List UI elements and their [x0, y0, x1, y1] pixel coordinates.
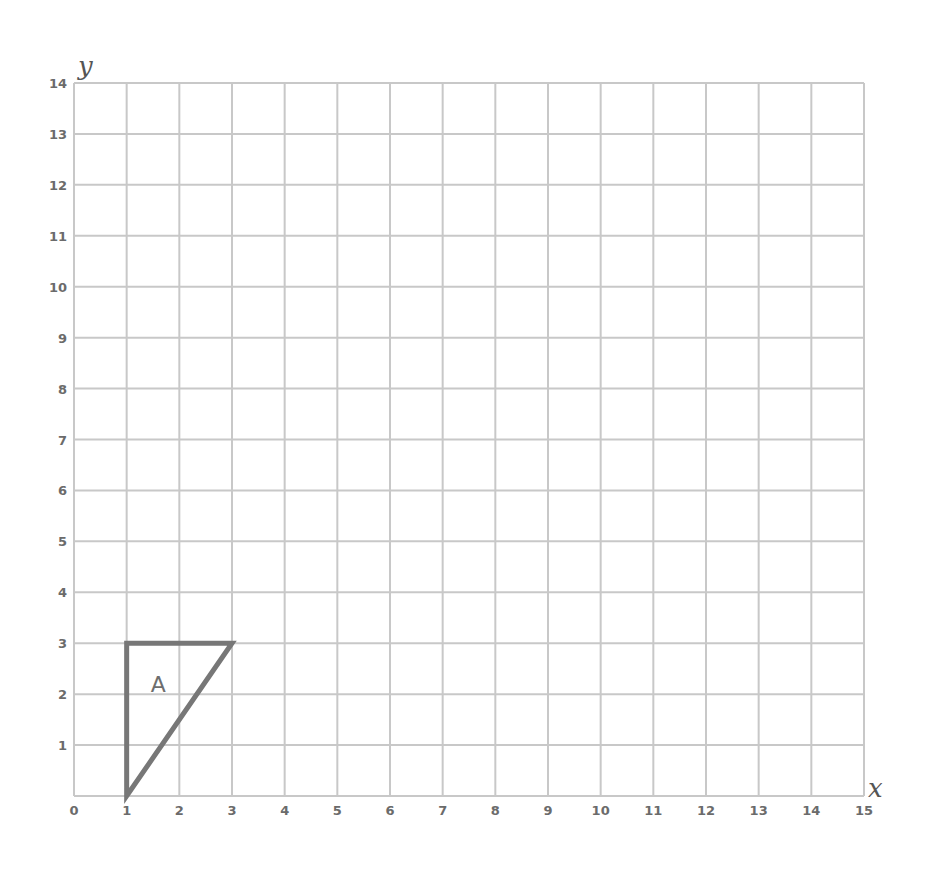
- x-tick-label: 7: [438, 803, 447, 818]
- x-tick-label: 4: [280, 803, 289, 818]
- x-tick-label: 11: [644, 803, 662, 818]
- y-tick-label: 4: [58, 585, 67, 600]
- y-tick-label: 6: [58, 483, 67, 498]
- y-tick-label: 10: [49, 280, 67, 295]
- y-tick-label: 1: [58, 738, 67, 753]
- x-tick-label: 9: [543, 803, 552, 818]
- y-tick-label: 2: [58, 687, 67, 702]
- y-axis-label: y: [77, 51, 93, 81]
- shape-label: A: [151, 672, 166, 697]
- y-tick-label: 5: [58, 534, 67, 549]
- y-tick-label: 11: [49, 229, 67, 244]
- y-tick-label: 14: [49, 76, 67, 91]
- x-tick-label: 0: [69, 803, 78, 818]
- coordinate-grid: 0123456789101112131415 12345678910111213…: [0, 0, 937, 869]
- x-tick-label: 2: [175, 803, 184, 818]
- y-tick-label: 3: [58, 636, 67, 651]
- y-axis-ticks: 1234567891011121314: [49, 76, 67, 753]
- y-tick-label: 13: [49, 127, 67, 142]
- x-tick-label: 13: [750, 803, 768, 818]
- x-tick-label: 14: [802, 803, 820, 818]
- x-tick-label: 1: [122, 803, 131, 818]
- x-axis-label: x: [868, 773, 883, 803]
- x-tick-label: 3: [227, 803, 236, 818]
- y-tick-label: 9: [58, 331, 67, 346]
- x-tick-label: 6: [385, 803, 394, 818]
- y-tick-label: 8: [58, 382, 67, 397]
- y-tick-label: 12: [49, 178, 67, 193]
- x-tick-label: 10: [592, 803, 610, 818]
- x-tick-label: 15: [855, 803, 873, 818]
- x-tick-label: 5: [333, 803, 342, 818]
- grid-lines: [74, 83, 864, 796]
- x-tick-label: 8: [491, 803, 500, 818]
- x-tick-label: 12: [697, 803, 715, 818]
- y-tick-label: 7: [58, 433, 67, 448]
- x-axis-ticks: 0123456789101112131415: [69, 803, 873, 818]
